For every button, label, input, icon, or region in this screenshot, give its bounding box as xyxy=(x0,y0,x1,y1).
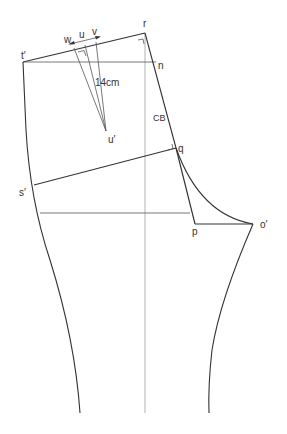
centre-back-line xyxy=(145,33,176,148)
label-n: n xyxy=(158,60,164,71)
right-angle-mark-q xyxy=(168,144,173,150)
right-angle-mark-dart xyxy=(78,51,86,57)
seat-line xyxy=(34,148,176,185)
dart-centre-u xyxy=(85,45,106,131)
label-v: v xyxy=(92,26,97,37)
pattern-diagram: r t′ n w u v 14cm u′ CB q s′ p o′ xyxy=(0,0,287,434)
label-u-prime: u′ xyxy=(108,134,116,145)
inside-leg-seam xyxy=(209,224,253,413)
label-q: q xyxy=(178,143,184,154)
side-seam-left xyxy=(23,62,80,413)
label-s-prime: s′ xyxy=(19,187,26,198)
label-w: w xyxy=(63,34,72,45)
label-o-prime: o′ xyxy=(260,219,268,230)
label-p: p xyxy=(192,226,198,237)
right-angle-mark-r xyxy=(138,39,144,44)
label-t-prime: t′ xyxy=(21,50,26,61)
label-u: u xyxy=(79,29,85,40)
label-r: r xyxy=(143,18,147,29)
label-dart-length: 14cm xyxy=(95,77,119,88)
label-cb: CB xyxy=(153,113,166,123)
